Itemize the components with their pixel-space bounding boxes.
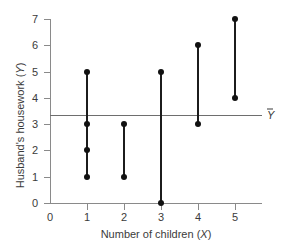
y-tick — [44, 177, 50, 178]
y-tick — [44, 45, 50, 46]
y-tick — [44, 19, 50, 20]
y-tick — [44, 124, 50, 125]
y-axis-variable: Y — [14, 66, 26, 73]
x-axis-title-text: Number of children ( — [101, 228, 201, 240]
x-axis-line — [50, 203, 262, 204]
y-axis-title-text: Husband's housework ( — [14, 74, 26, 189]
x-tick — [235, 204, 236, 210]
x-tick-label: 3 — [158, 212, 164, 223]
group-connector-line — [197, 45, 199, 124]
data-point — [84, 121, 90, 127]
x-tick-label: 1 — [84, 212, 90, 223]
mean-line — [50, 115, 262, 116]
y-tick — [44, 72, 50, 73]
data-point — [121, 174, 127, 180]
plot-area: 01234567 012345 Y — [50, 19, 245, 203]
data-point — [232, 16, 238, 22]
y-axis-title: Husband's housework (Y) — [14, 0, 30, 251]
x-tick-label: 2 — [121, 212, 127, 223]
data-point — [195, 121, 201, 127]
x-axis-title-close: ) — [208, 228, 212, 240]
y-tick — [44, 203, 50, 204]
group-connector-line — [123, 124, 125, 177]
y-tick — [44, 150, 50, 151]
mean-line-label: Y — [267, 110, 274, 121]
data-point — [195, 42, 201, 48]
data-point — [84, 174, 90, 180]
group-connector-line — [234, 19, 236, 98]
data-point — [121, 121, 127, 127]
mean-label-text: Y — [267, 110, 274, 121]
data-point — [158, 69, 164, 75]
x-tick — [124, 204, 125, 210]
data-point — [158, 200, 164, 206]
x-tick-label: 5 — [232, 212, 238, 223]
x-tick-label: 0 — [47, 212, 53, 223]
group-connector-line — [160, 72, 162, 203]
x-tick — [87, 204, 88, 210]
data-point — [84, 147, 90, 153]
x-tick-label: 4 — [195, 212, 201, 223]
x-axis-variable: X — [200, 228, 207, 240]
y-axis-line — [50, 19, 51, 204]
y-axis-title-close: ) — [14, 63, 26, 67]
y-tick — [44, 98, 50, 99]
data-point — [84, 69, 90, 75]
x-tick — [198, 204, 199, 210]
x-axis-title: Number of children (X) — [50, 228, 262, 240]
scatter-plot-figure: 01234567 012345 Y Number of children (X)… — [0, 0, 296, 251]
data-point — [232, 95, 238, 101]
